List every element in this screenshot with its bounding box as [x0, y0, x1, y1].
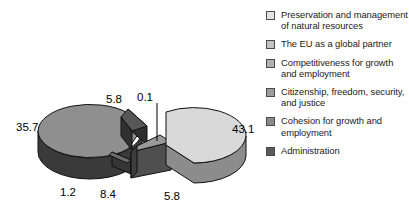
legend-item-preservation[interactable]: Preservation and management of natural r…: [266, 9, 409, 31]
legend: Preservation and management of natural r…: [266, 9, 409, 163]
legend-item-eu-global-partner[interactable]: The EU as a global partner: [266, 38, 409, 49]
legend-swatch-icon-administration: [266, 147, 275, 156]
value-label-0-1: 0.1: [137, 91, 153, 103]
slice-competitiveness-8-4[interactable]: [131, 135, 171, 178]
legend-label-preservation: Preservation and management of natural r…: [281, 9, 409, 31]
value-label-43-1: 43.1: [232, 123, 254, 135]
legend-swatch-icon-citizenship: [266, 88, 275, 97]
value-label-top-5-8: 5.8: [106, 93, 122, 105]
legend-label-competitiveness: Competitiveness for growth and employmen…: [281, 57, 409, 79]
legend-item-administration[interactable]: Administration: [266, 145, 409, 156]
legend-item-competitiveness[interactable]: Competitiveness for growth and employmen…: [266, 57, 409, 79]
pie-chart-figure: 35.7 5.8 0.1 43.1 1.2 8.4 5.8 Preservati…: [0, 0, 409, 211]
legend-label-cohesion: Cohesion for growth and employment: [281, 115, 409, 137]
value-label-bottom-5-8: 5.8: [164, 190, 180, 202]
legend-swatch-icon-preservation: [266, 11, 275, 20]
legend-swatch-icon-eu-global-partner: [266, 40, 275, 49]
legend-swatch-icon-competitiveness: [266, 59, 275, 68]
legend-label-eu-global-partner: The EU as a global partner: [281, 38, 392, 49]
legend-label-administration: Administration: [281, 145, 340, 156]
legend-item-cohesion[interactable]: Cohesion for growth and employment: [266, 115, 409, 137]
value-label-8-4: 8.4: [100, 188, 117, 200]
legend-swatch-icon-cohesion: [266, 117, 275, 126]
legend-item-citizenship[interactable]: Citizenship, freedom, security, and just…: [266, 86, 409, 108]
legend-label-citizenship: Citizenship, freedom, security, and just…: [281, 86, 409, 108]
value-label-35-7: 35.7: [16, 121, 38, 133]
value-label-1-2: 1.2: [60, 186, 76, 198]
slice-preservation-43-1[interactable]: [166, 108, 246, 183]
